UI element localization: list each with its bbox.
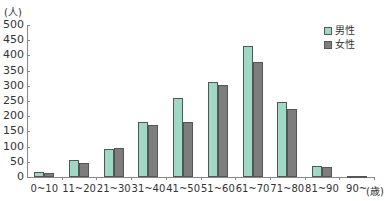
x-tick-mark (166, 177, 167, 180)
female-bar (183, 122, 193, 177)
y-tick-mark (27, 40, 30, 41)
y-tick-mark (27, 147, 30, 148)
y-tick-mark (27, 162, 30, 163)
male-bar (34, 172, 44, 177)
x-tick-mark (305, 177, 306, 180)
y-tick-label: 300 (0, 80, 24, 91)
y-tick-mark (27, 55, 30, 56)
y-tick-mark (27, 177, 30, 178)
male-bar (312, 166, 322, 177)
female-bar (253, 62, 263, 177)
male-bar (277, 102, 287, 177)
y-tick-label: 450 (0, 34, 24, 45)
male-bar (347, 176, 357, 178)
y-tick-mark (27, 101, 30, 102)
y-tick-mark (27, 116, 30, 117)
y-tick-mark (27, 25, 30, 26)
x-tick-mark (374, 177, 375, 180)
male-bar (173, 98, 183, 177)
female-bar (148, 125, 158, 177)
x-tick-mark (270, 177, 271, 180)
legend: 男性 女性 (324, 24, 355, 52)
male-swatch-icon (324, 27, 332, 35)
male-bar (69, 160, 79, 177)
y-tick-mark (27, 131, 30, 132)
female-swatch-icon (324, 41, 332, 49)
y-tick-label: 500 (0, 19, 24, 30)
y-tick-label: 50 (0, 156, 24, 167)
y-tick-label: 200 (0, 110, 24, 121)
legend-item-female: 女性 (324, 38, 355, 52)
x-tick-mark (96, 177, 97, 180)
male-bar (104, 149, 114, 177)
x-axis-unit-label: (歳) (366, 183, 384, 198)
y-tick-label: 0 (0, 171, 24, 182)
y-tick-label: 150 (0, 125, 24, 136)
y-tick-label: 350 (0, 65, 24, 76)
female-bar (44, 173, 54, 177)
female-bar (218, 85, 228, 177)
legend-label-female: 女性 (335, 38, 355, 52)
y-tick-mark (27, 71, 30, 72)
y-axis-unit-label: (人) (4, 4, 22, 19)
male-bar (138, 122, 148, 177)
y-tick-mark (27, 86, 30, 87)
legend-item-male: 男性 (324, 24, 355, 38)
age-gender-bar-chart: (人) 050100150200250300350400450500 0~101… (0, 0, 391, 201)
male-bar (243, 46, 253, 177)
y-tick-label: 250 (0, 95, 24, 106)
x-tick-mark (235, 177, 236, 180)
female-bar (357, 176, 367, 178)
x-tick-mark (131, 177, 132, 180)
legend-label-male: 男性 (335, 24, 355, 38)
female-bar (79, 163, 89, 177)
x-tick-mark (62, 177, 63, 180)
female-bar (322, 167, 332, 177)
y-tick-label: 400 (0, 49, 24, 60)
female-bar (287, 109, 297, 177)
x-tick-mark (201, 177, 202, 180)
x-tick-mark (339, 177, 340, 180)
female-bar (114, 148, 124, 177)
male-bar (208, 82, 218, 177)
y-tick-label: 100 (0, 141, 24, 152)
